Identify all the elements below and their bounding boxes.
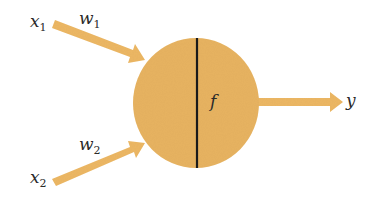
weight-1-label: w1 [79,8,101,31]
output-arrow [250,92,343,112]
weight-2-label: w2 [79,134,101,157]
output-label: y [345,90,356,110]
input-2-label: x2 [30,167,47,190]
input-1-label: x1 [30,11,47,34]
neuron-diagram: x1 w1 w2 x2 f y [0,0,380,208]
